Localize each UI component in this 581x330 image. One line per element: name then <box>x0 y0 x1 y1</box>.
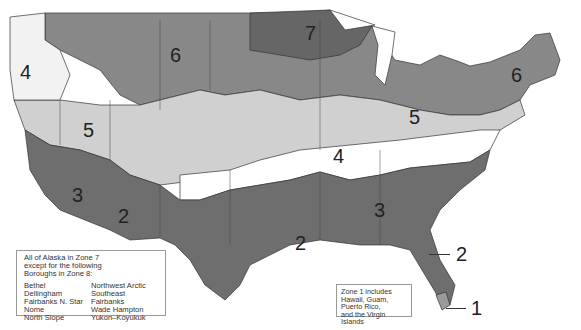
zone-label-2-florida: 2 <box>456 244 467 264</box>
zone-label-1: 1 <box>471 298 482 318</box>
zone-label-3-south: 3 <box>374 200 385 220</box>
zone-2-florida-leader <box>429 254 450 255</box>
zone-label-5-east: 5 <box>409 107 420 127</box>
zone-label-5-west: 5 <box>83 120 94 140</box>
zone-label-4-central: 4 <box>333 146 344 166</box>
borough-list-1: Bethel Dellingham Fairbanks N. Star Nome… <box>24 282 91 322</box>
zone-label-6-east: 6 <box>511 65 522 85</box>
zone-label-2-west: 2 <box>118 206 129 226</box>
zone1-note-box: Zone 1 includes Hawaii, Guam, Puerto Ric… <box>336 284 412 317</box>
zone-1-leader <box>446 308 466 309</box>
borough-list-2: Northwest Arctic Southeast Fairbanks Wad… <box>91 282 158 322</box>
alaska-note-header: All of Alaska in Zone 7 except for the f… <box>24 254 158 278</box>
zone-label-4-west: 4 <box>20 62 31 82</box>
alaska-note-box: All of Alaska in Zone 7 except for the f… <box>16 250 166 316</box>
zone-label-7: 7 <box>305 23 316 43</box>
zone-label-3-west: 3 <box>72 185 83 205</box>
zone-label-2-south: 2 <box>295 233 306 253</box>
zone-label-6-west: 6 <box>170 45 181 65</box>
